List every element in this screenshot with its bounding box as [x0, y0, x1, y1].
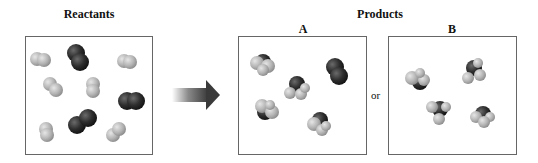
nh3-molecule-icon — [462, 58, 486, 84]
h2-molecule-icon — [86, 77, 100, 98]
nh3-molecule-icon — [284, 76, 310, 100]
nh3-molecule-icon — [405, 68, 430, 90]
h2-molecule-icon — [30, 52, 51, 67]
n2-molecule-icon — [67, 44, 89, 71]
nh3-molecule-icon — [255, 99, 279, 120]
nh3-molecule-icon — [307, 112, 331, 136]
nh3-molecule-icon — [426, 101, 451, 125]
nh3-molecule-icon — [250, 54, 275, 76]
diagram-graphics — [0, 0, 538, 163]
n2-molecule-icon — [326, 58, 348, 85]
n2-molecule-icon — [68, 109, 97, 134]
reaction-arrow-icon — [172, 80, 220, 110]
nh3-molecule-icon — [470, 106, 495, 128]
h2-molecule-icon — [117, 54, 137, 69]
h2-molecule-icon — [39, 122, 54, 142]
n2-molecule-icon — [118, 92, 145, 110]
h2-molecule-icon — [106, 122, 126, 142]
h2-molecule-icon — [43, 77, 63, 97]
